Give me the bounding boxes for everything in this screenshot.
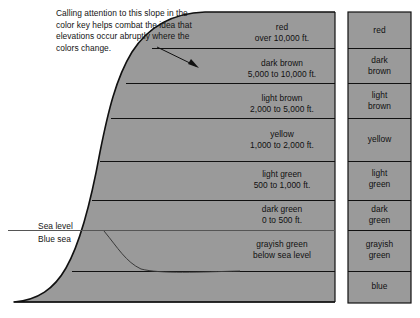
- band-range: 500 to 1,000 ft.: [215, 180, 349, 191]
- band-color-name: light brown: [261, 93, 302, 103]
- band-range: below sea level: [215, 250, 349, 261]
- key-line-1: dark: [371, 55, 388, 65]
- band-color-name: grayish green: [256, 239, 307, 249]
- key-line-1: light: [372, 90, 388, 100]
- key-item-red: red: [348, 25, 411, 36]
- key-line-2: brown: [348, 66, 411, 77]
- elevation-color-key-diagram: Calling attention to this slope in the c…: [0, 0, 420, 318]
- key-line-2: green: [348, 179, 411, 190]
- band-range: 0 to 500 ft.: [215, 215, 349, 226]
- key-item-light-green: light green: [348, 168, 411, 190]
- key-line-1: light: [372, 168, 388, 178]
- band-range: over 10,000 ft.: [215, 33, 349, 44]
- annotation-line-1: Calling attention to this slope in the: [56, 8, 231, 20]
- annotation-line-3: elevations occur abruptly where the: [56, 31, 231, 43]
- key-line-1: blue: [371, 281, 387, 291]
- band-label-dark-green: dark green 0 to 500 ft.: [215, 204, 349, 226]
- sea-level-label: Sea level: [38, 221, 73, 231]
- key-item-blue: blue: [348, 281, 411, 292]
- band-range: 1,000 to 2,000 ft.: [215, 140, 349, 151]
- band-color-name: red: [276, 22, 288, 32]
- key-item-light-brown: light brown: [348, 90, 411, 112]
- key-line-1: yellow: [368, 134, 392, 144]
- band-label-dark-brown: dark brown 5,000 to 10,000 ft.: [215, 58, 349, 80]
- annotation-line-2: color key helps combat the idea that: [56, 20, 231, 32]
- band-color-name: dark green: [262, 204, 303, 214]
- annotation-line-4: colors change.: [56, 43, 231, 55]
- band-label-red: red over 10,000 ft.: [215, 22, 349, 44]
- band-label-grayish-green: grayish green below sea level: [215, 239, 349, 261]
- band-label-light-green: light green 500 to 1,000 ft.: [215, 169, 349, 191]
- key-line-1: dark: [371, 204, 388, 214]
- key-item-grayish-green: grayish green: [348, 239, 411, 261]
- key-item-dark-brown: dark brown: [348, 55, 411, 77]
- blue-sea-label: Blue sea: [38, 234, 71, 244]
- band-color-name: light green: [262, 169, 302, 179]
- band-color-name: dark brown: [261, 58, 303, 68]
- key-line-1: grayish: [366, 239, 393, 249]
- key-line-2: green: [348, 250, 411, 261]
- key-line-1: red: [373, 25, 385, 35]
- band-range: 5,000 to 10,000 ft.: [215, 69, 349, 80]
- band-label-light-brown: light brown 2,000 to 5,000 ft.: [215, 93, 349, 115]
- key-item-dark-green: dark green: [348, 204, 411, 226]
- annotation-text: Calling attention to this slope in the c…: [56, 8, 231, 54]
- key-line-2: brown: [348, 101, 411, 112]
- band-label-yellow: yellow 1,000 to 2,000 ft.: [215, 129, 349, 151]
- band-color-name: yellow: [270, 129, 294, 139]
- key-item-yellow: yellow: [348, 134, 411, 145]
- key-line-2: green: [348, 215, 411, 226]
- band-range: 2,000 to 5,000 ft.: [215, 104, 349, 115]
